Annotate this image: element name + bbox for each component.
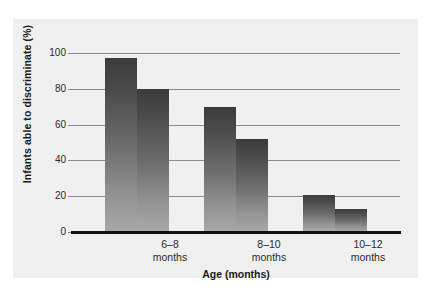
xtick-range-10-12: 10–12 <box>323 238 413 251</box>
x-axis-line <box>71 231 401 234</box>
chart-figure: 100 80 60 40 20 0 Infants able to discri… <box>0 0 431 296</box>
xtick-range-6-8: 6–8 <box>125 238 215 251</box>
xtick-unit-6-8: months <box>125 251 215 264</box>
ytick-label-100: 100 <box>32 48 66 58</box>
ytick-label-80: 80 <box>32 84 66 94</box>
ytick-label-20: 20 <box>32 191 66 201</box>
bar-10-12-months-series-2 <box>335 209 367 232</box>
xtick-unit-10-12: months <box>323 251 413 264</box>
bar-8-10-months-series-1 <box>204 107 236 232</box>
xtick-label-10-12-months: 10–12 months <box>323 238 413 263</box>
x-axis-label: Age (months) <box>72 268 400 280</box>
bar-8-10-months-series-2 <box>236 139 268 232</box>
bar-10-12-months-series-1 <box>303 195 335 232</box>
bar-6-8-months-series-1 <box>105 58 137 232</box>
gridline-100 <box>72 53 400 54</box>
ytick-0: 0 <box>26 227 66 237</box>
ytick-label-60: 60 <box>32 120 66 130</box>
ytick-label-40: 40 <box>32 155 66 165</box>
xtick-label-6-8-months: 6–8 months <box>125 238 215 263</box>
plot-area <box>72 53 400 232</box>
xtick-range-8-10: 8–10 <box>224 238 314 251</box>
ytick-label-0: 0 <box>32 227 66 237</box>
bar-6-8-months-series-2 <box>137 89 169 232</box>
xtick-label-8-10-months: 8–10 months <box>224 238 314 263</box>
xtick-unit-8-10: months <box>224 251 314 264</box>
y-axis-label: Infants able to discriminate (%) <box>21 14 33 194</box>
